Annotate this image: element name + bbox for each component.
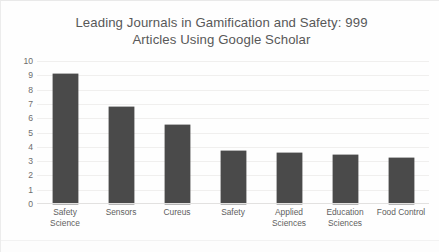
x-axis-label: EducationSciences: [317, 207, 373, 228]
x-axis-label-line: Safety Science: [38, 207, 92, 228]
bar[interactable]: [389, 158, 414, 204]
x-axis-label-line: Sensors: [94, 207, 148, 218]
x-axis-line: [37, 203, 429, 204]
x-axis-label: Food Control: [373, 207, 429, 228]
y-axis-tick: 5: [1, 128, 33, 138]
y-axis-tick: 8: [1, 85, 33, 95]
bar-slot: [37, 61, 93, 204]
bar[interactable]: [221, 151, 246, 204]
bar-series: [37, 61, 429, 204]
x-axis-label: Sensors: [93, 207, 149, 228]
y-axis-tick: 9: [1, 70, 33, 80]
bar[interactable]: [277, 153, 302, 204]
y-axis-tick: 4: [1, 142, 33, 152]
y-axis-tick: 2: [1, 170, 33, 180]
x-axis-label-line: Sciences: [318, 218, 372, 229]
y-axis-tick: 1: [1, 185, 33, 195]
plot-area: [37, 61, 429, 204]
x-axis-label: AppliedSciences: [261, 207, 317, 228]
chart-title-line-1: Leading Journals in Gamification and Saf…: [49, 14, 394, 31]
bar[interactable]: [109, 107, 134, 204]
scan-edge-artifact: [1, 240, 439, 252]
y-axis-tick: 3: [1, 156, 33, 166]
x-axis-label-line: Applied: [262, 207, 316, 218]
bar-slot: [373, 61, 429, 204]
x-axis-label-line: Education: [318, 207, 372, 218]
y-axis: 109876543210: [1, 61, 33, 204]
bar-slot: [149, 61, 205, 204]
x-axis-labels: Safety ScienceSensorsCureusSafetyApplied…: [37, 207, 429, 228]
x-axis-label-line: Cureus: [150, 207, 204, 218]
x-axis-label-line: Food Control: [374, 207, 428, 218]
chart-title: Leading Journals in Gamification and Saf…: [49, 14, 394, 48]
x-axis-label-line: Sciences: [262, 218, 316, 229]
x-axis-label: Cureus: [149, 207, 205, 228]
y-axis-tick: 10: [1, 56, 33, 66]
bar-slot: [93, 61, 149, 204]
y-axis-tick: 7: [1, 99, 33, 109]
bar[interactable]: [333, 155, 358, 204]
bar-slot: [205, 61, 261, 204]
x-axis-label: Safety Science: [37, 207, 93, 228]
x-axis-label-line: Safety: [206, 207, 260, 218]
bar[interactable]: [165, 125, 190, 204]
chart-container: Leading Journals in Gamification and Saf…: [0, 0, 439, 252]
bar-slot: [261, 61, 317, 204]
bar-slot: [317, 61, 373, 204]
y-axis-tick: 0: [1, 199, 33, 209]
x-axis-label: Safety: [205, 207, 261, 228]
chart-title-line-2: Articles Using Google Scholar: [49, 31, 394, 48]
bar[interactable]: [53, 74, 78, 204]
y-axis-tick: 6: [1, 113, 33, 123]
